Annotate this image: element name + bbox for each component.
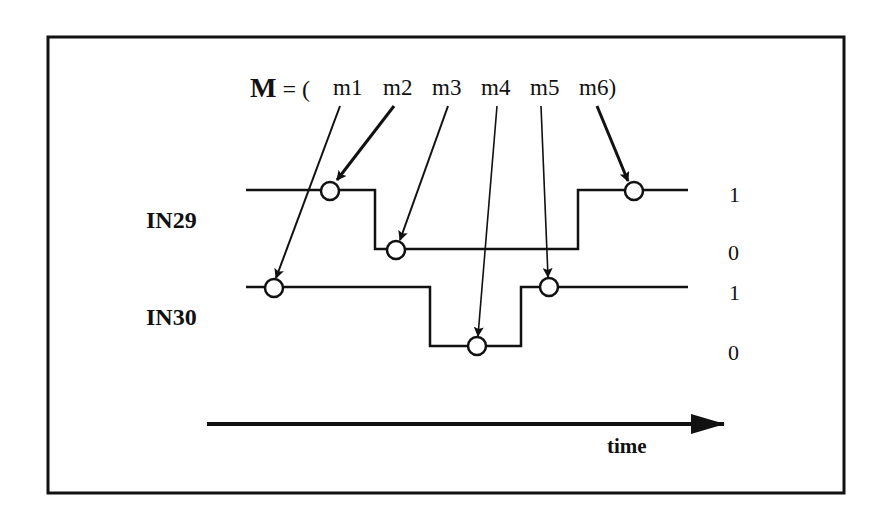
- sample-point-m6: [625, 182, 643, 200]
- in29-level-high: 1: [729, 182, 740, 208]
- vector-close-paren: ): [608, 75, 616, 100]
- vector-title: M = (: [250, 72, 310, 104]
- sample-point-m5: [540, 278, 558, 296]
- signal-label-in29: IN29: [146, 207, 197, 234]
- marker-label-m3: m3: [432, 75, 461, 101]
- time-axis-label: time: [607, 434, 647, 459]
- marker-arrows: [276, 106, 628, 336]
- sample-points: [265, 182, 643, 355]
- arrow-m4: [478, 106, 497, 336]
- marker-label-m6-text: m6: [579, 75, 608, 100]
- in30-level-low: 0: [728, 340, 739, 366]
- signal-label-in30: IN30: [146, 304, 197, 331]
- marker-label-m6: m6): [579, 75, 616, 101]
- vector-equals: =: [282, 76, 296, 102]
- marker-label-m2: m2: [383, 75, 412, 101]
- in30-level-high: 1: [729, 280, 740, 306]
- vector-open-paren: (: [302, 76, 310, 102]
- sample-point-m2: [321, 182, 339, 200]
- in30-waveform: [246, 287, 688, 346]
- marker-label-m1: m1: [333, 75, 362, 101]
- marker-label-m5: m5: [530, 75, 559, 101]
- marker-label-m4: m4: [481, 75, 510, 101]
- vector-symbol: M: [250, 72, 276, 103]
- arrow-m3: [400, 106, 448, 240]
- sample-point-m1: [265, 279, 283, 297]
- in29-waveform: [246, 190, 688, 249]
- sample-point-m3: [387, 241, 405, 259]
- arrow-m6: [597, 106, 628, 181]
- arrow-m2: [337, 106, 394, 180]
- arrow-m5: [541, 106, 548, 277]
- sample-point-m4: [468, 337, 486, 355]
- in29-level-low: 0: [728, 240, 739, 266]
